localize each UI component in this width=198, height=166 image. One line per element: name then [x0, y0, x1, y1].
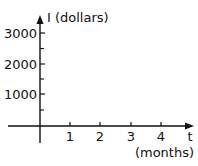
x-axis-label: t [187, 129, 192, 144]
x-tick-label-1: 1 [66, 129, 74, 144]
y-axis-label: I (dollars) [47, 10, 109, 25]
y-axis-arrow-icon [37, 15, 44, 24]
x-tick-label-3: 3 [127, 129, 135, 144]
x-axis-unit: (months) [135, 145, 194, 160]
chart-canvas: 3000 2000 1000 1 2 3 4 I (dollars) t (mo… [0, 0, 198, 166]
x-tick-label-4: 4 [157, 129, 165, 144]
x-tick-label-2: 2 [96, 129, 104, 144]
y-tick-label-3000: 3000 [4, 26, 37, 41]
y-tick-label-1000: 1000 [4, 87, 37, 102]
y-tick-label-2000: 2000 [4, 57, 37, 72]
